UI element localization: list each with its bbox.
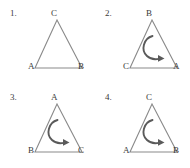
figure-item-1: 1. C A B bbox=[0, 0, 95, 84]
vertex-label-apex: C bbox=[146, 93, 152, 102]
triangle-outline bbox=[35, 104, 82, 152]
triangle-diagram-3 bbox=[0, 84, 95, 168]
clockwise-rotation-arrow-icon bbox=[49, 120, 70, 146]
figure-item-3: 3. A B C bbox=[0, 84, 95, 168]
figure-item-2: 2. B C A bbox=[95, 0, 190, 84]
clockwise-rotation-arrow-icon bbox=[144, 120, 165, 146]
triangle-outline bbox=[130, 20, 177, 68]
vertex-label-left: A bbox=[28, 62, 35, 71]
clockwise-rotation-arrow-icon bbox=[144, 36, 165, 62]
vertex-label-left: B bbox=[28, 146, 34, 155]
vertex-label-apex: A bbox=[51, 93, 58, 102]
vertex-label-left: A bbox=[123, 146, 130, 155]
vertex-label-right: A bbox=[173, 62, 180, 71]
triangle-diagram-1 bbox=[0, 0, 95, 84]
vertex-label-right: B bbox=[78, 62, 84, 71]
triangle-diagram-2 bbox=[95, 0, 190, 84]
vertex-label-apex: C bbox=[51, 9, 57, 18]
figure-item-4: 4. C A B bbox=[95, 84, 190, 168]
triangle-figure-grid: 1. C A B 2. B C A 3. A B C bbox=[0, 0, 190, 168]
vertex-label-right: B bbox=[173, 146, 179, 155]
vertex-label-apex: B bbox=[146, 9, 152, 18]
triangle-outline bbox=[35, 20, 82, 68]
vertex-label-left: C bbox=[123, 62, 129, 71]
vertex-label-right: C bbox=[78, 146, 84, 155]
triangle-diagram-4 bbox=[95, 84, 190, 168]
triangle-outline bbox=[130, 104, 177, 152]
